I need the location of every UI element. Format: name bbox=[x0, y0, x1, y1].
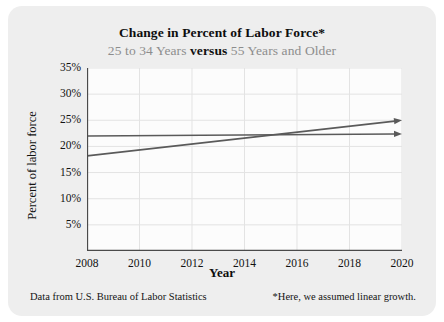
chart-svg bbox=[87, 68, 402, 251]
series-line-1 bbox=[87, 121, 395, 156]
footer-note: *Here, we assumed linear growth. bbox=[273, 291, 416, 302]
subtitle-segment-older: 55 Years and Older bbox=[231, 43, 336, 58]
y-tick-label: 5% bbox=[37, 218, 81, 230]
series-arrowhead-0 bbox=[394, 131, 402, 137]
y-tick-label: 25% bbox=[37, 113, 81, 125]
footer-source: Data from U.S. Bureau of Labor Statistic… bbox=[30, 291, 207, 302]
gridlines bbox=[87, 68, 402, 251]
y-tick-label: 30% bbox=[37, 87, 81, 99]
y-tick-label: 10% bbox=[37, 192, 81, 204]
y-tick-label: 35% bbox=[37, 61, 81, 73]
series-line-0 bbox=[87, 134, 395, 136]
x-axis-title: Year bbox=[8, 265, 436, 281]
series-arrowhead-1 bbox=[394, 118, 402, 124]
y-tick-label: 15% bbox=[37, 166, 81, 178]
y-tick-label: 20% bbox=[37, 139, 81, 151]
plot-area bbox=[87, 68, 402, 251]
chart-subtitle: 25 to 34 Years versus 55 Years and Older bbox=[8, 43, 436, 59]
chart-title: Change in Percent of Labor Force* bbox=[8, 25, 436, 41]
subtitle-versus: versus bbox=[190, 43, 227, 58]
subtitle-segment-young: 25 to 34 Years bbox=[108, 43, 187, 58]
chart-card: Change in Percent of Labor Force* 25 to … bbox=[8, 6, 436, 316]
